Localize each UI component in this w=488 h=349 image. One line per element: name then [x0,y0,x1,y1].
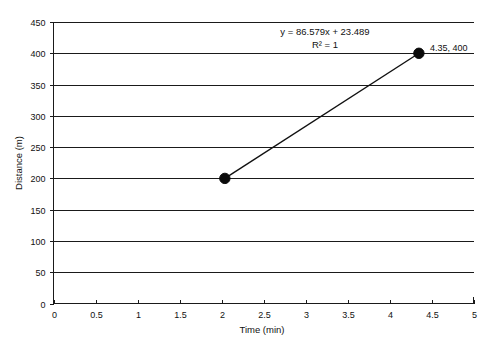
y-tick-label: 400 [30,49,45,59]
y-tick-label: 450 [30,18,45,28]
data-point-label: 4.35, 400 [430,43,468,53]
y-tick-label: 300 [30,112,45,122]
x-tick-label: 2.5 [258,310,271,320]
y-tick-label: 100 [30,237,45,247]
trendline-equation-text: y = 86.579x + 23.489 [280,26,369,37]
chart-container: 050100150200250300350400450 00.511.522.5… [0,0,488,349]
x-tick-label: 2 [220,310,225,320]
y-tick-label: 350 [30,81,45,91]
y-tick-label: 150 [30,206,45,216]
x-axis-title: Time (min) [239,324,284,335]
y-tick-label: 250 [30,143,45,153]
data-point-marker [220,173,230,183]
y-tick-label: 200 [30,174,45,184]
data-point-marker [414,48,424,58]
y-axis-title: Distance (m) [13,136,24,190]
x-tick-label: 5 [472,310,477,320]
x-tick-label: 0 [52,310,57,320]
y-tick-label: 0 [40,300,45,310]
x-tick-label: 1 [136,310,141,320]
x-tick-label: 0.5 [90,310,103,320]
x-tick-label: 4.5 [426,310,439,320]
r-squared-text: R² = 1 [312,39,338,50]
x-tick-label: 3.5 [342,310,355,320]
y-tick-label: 50 [35,268,45,278]
scatter-plot: 050100150200250300350400450 00.511.522.5… [0,0,488,349]
x-tick-label: 1.5 [174,310,187,320]
x-tick-label: 4 [388,310,393,320]
x-tick-label: 3 [304,310,309,320]
